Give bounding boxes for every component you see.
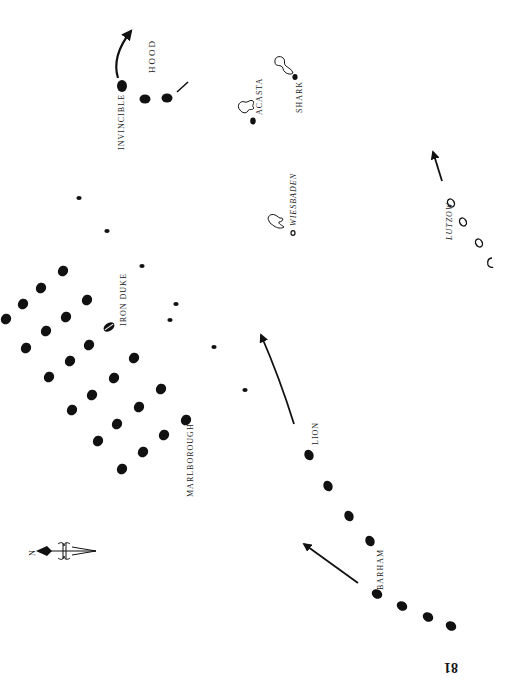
ship-marker [458, 217, 468, 227]
invincible-course-arrow [116, 31, 131, 78]
column-6 [115, 413, 194, 477]
label-lutzow: LUTZOW [445, 202, 454, 240]
hood-course-line [177, 82, 188, 92]
label-lion: LION [311, 422, 320, 445]
light-craft-marker [167, 318, 172, 322]
ship-marker [343, 509, 356, 523]
column-3 [42, 320, 116, 384]
label-acasta: ACASTA [255, 78, 264, 115]
ship-marker [19, 341, 34, 356]
ship-marker [59, 310, 74, 325]
light-craft-marker [104, 229, 109, 233]
ship-marker [488, 258, 493, 267]
ship-marker [132, 400, 147, 415]
ship-marker [154, 382, 169, 397]
lutzow-group [433, 152, 493, 267]
ship-marker [364, 534, 377, 548]
ship-iron-duke [102, 320, 116, 333]
smoke-icon [268, 214, 284, 228]
ship-marker [85, 388, 100, 403]
ship-marker [91, 434, 106, 449]
ship-acasta [250, 118, 256, 125]
light-craft-marker [211, 345, 216, 349]
ship-marker [16, 297, 31, 312]
smoke-icon [275, 57, 293, 74]
label-shark: SHARK [295, 81, 304, 113]
ship-marker [42, 370, 57, 385]
light-craft-marker [76, 196, 81, 200]
north-arrow-icon [36, 546, 52, 556]
column-5 [91, 382, 169, 449]
ship-marker [157, 428, 172, 443]
ship-marker [474, 238, 484, 248]
lutzow-course-arrow [433, 152, 442, 181]
smoke-icon [238, 100, 254, 112]
ship-marker [136, 445, 151, 460]
compass-rose [36, 543, 96, 560]
ship-shark [292, 74, 297, 80]
label-barham: BARHAM [376, 549, 385, 590]
ship-invincible [117, 80, 127, 92]
grand-fleet [0, 264, 193, 477]
lion-course-arrow [261, 335, 294, 424]
ship-marker [162, 94, 173, 103]
label-hood: HOOD [147, 39, 157, 73]
ship-marker [110, 417, 125, 432]
ship-marker [56, 264, 71, 279]
column-2 [19, 293, 95, 356]
ship-marker [0, 312, 13, 327]
column-4 [65, 351, 142, 418]
light-craft-marker [242, 388, 247, 392]
ship-marker [39, 324, 54, 339]
shark-wreck [275, 57, 298, 80]
label-invincible: INVINCIBLE [117, 94, 126, 150]
ship-marker [34, 281, 49, 296]
page-number: 81 [444, 659, 458, 675]
ship-lion [303, 448, 316, 462]
light-craft-marker [139, 264, 144, 268]
ship-marker [140, 95, 151, 104]
ship-marker [80, 293, 95, 308]
ship-marker [115, 462, 130, 477]
ship-wiesbaden [291, 231, 295, 236]
barham-course-arrow [304, 544, 358, 583]
ship-marker [127, 351, 142, 366]
compass-north-label: N [28, 549, 37, 556]
light-craft [76, 196, 247, 392]
column-1 [0, 264, 70, 327]
label-marlborough: MARLBOROUGH [186, 423, 195, 497]
ship-marker [322, 479, 335, 493]
light-craft-marker [173, 302, 178, 306]
ship-marker [107, 371, 122, 386]
acasta-wreck [238, 100, 255, 124]
ship-marker [421, 610, 435, 623]
label-wiesbaden: WIESBADEN [289, 173, 298, 226]
ship-marker [82, 338, 97, 353]
ship-marker [395, 599, 409, 612]
ship-marker [63, 354, 78, 369]
ship-marker [65, 403, 80, 418]
label-iron-duke: IRON DUKE [119, 273, 128, 326]
ship-marker [444, 619, 458, 632]
